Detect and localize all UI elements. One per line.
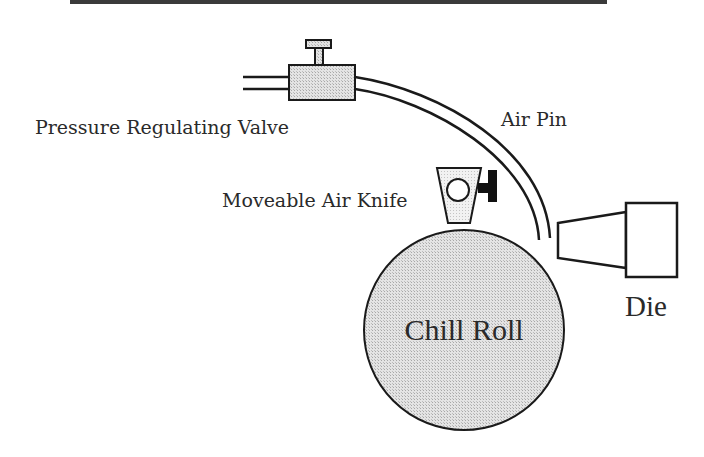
valve-body: [289, 65, 355, 100]
die: [558, 203, 677, 277]
label-die: Die: [625, 290, 667, 322]
moveable-air-knife: [437, 168, 497, 223]
label-moveable-air-knife: Moveable Air Knife: [222, 189, 407, 211]
diagram-canvas: Pressure Regulating Valve Air Pin Moveab…: [0, 0, 704, 457]
air-knife-handle-grip: [488, 170, 497, 202]
inlet-pipe: [243, 77, 289, 89]
die-lip: [558, 212, 626, 268]
valve-stem: [315, 48, 323, 65]
top-rule: [70, 0, 607, 4]
die-body: [626, 203, 677, 277]
label-chill-roll: Chill Roll: [404, 313, 523, 346]
label-air-pin: Air Pin: [500, 108, 567, 130]
pressure-regulating-valve: [289, 40, 355, 100]
diagram-svg: Pressure Regulating Valve Air Pin Moveab…: [0, 0, 704, 457]
air-knife-nozzle-icon: [447, 179, 469, 201]
label-pressure-regulating-valve: Pressure Regulating Valve: [35, 116, 289, 138]
valve-cap: [306, 40, 331, 48]
